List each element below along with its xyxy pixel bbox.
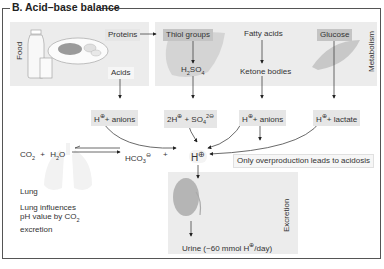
acids-node: Acids — [108, 67, 134, 79]
h-anions-food-node: H⊕+ anions — [91, 110, 138, 126]
co2-h2o-equation: CO2 + H2O — [20, 150, 65, 163]
plus-sign: + — [163, 150, 168, 160]
h2so4-node: H2SO4 — [181, 65, 204, 78]
proteins-node: Proteins — [105, 29, 140, 41]
lung-label: Lung — [20, 187, 38, 197]
ketone-bodies-node: Ketone bodies — [240, 67, 291, 77]
food-plate-icon — [48, 38, 108, 64]
fatty-acids-node: Fatty acids — [244, 29, 283, 39]
kidney-icon — [173, 178, 201, 216]
lung-influence-text: Lung influences pH value by CO2 excretio… — [20, 203, 80, 234]
urine-node: Urine (~60 mmol H⊕/day) — [182, 240, 272, 254]
thiol-groups-node: Thiol groups — [163, 29, 213, 41]
h-sulfate-node: 2H⊕ + SO42⊖ — [164, 110, 217, 128]
h-lactate-node: H⊕+ lactate — [313, 110, 360, 126]
glass-icon — [40, 58, 52, 78]
h-anions-ketone-node: H⊕+ anions — [239, 110, 286, 126]
overproduction-note: Only overproduction leads to acidosis — [233, 154, 374, 168]
bicarbonate-node: HCO3⊖ — [125, 150, 151, 166]
muscle-icon — [312, 40, 360, 70]
glucose-node: Glucose — [317, 29, 352, 41]
h-center-node: H⊕ — [189, 150, 207, 163]
